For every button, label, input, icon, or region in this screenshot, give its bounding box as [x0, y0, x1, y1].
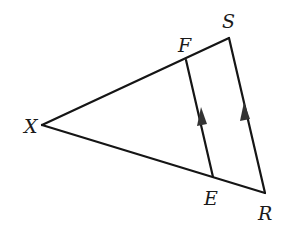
parallel-arrow-sr-icon [240, 102, 250, 121]
segment-xr [42, 125, 265, 193]
diagram-canvas: X F S E R [0, 0, 291, 233]
vertex-label-s: S [222, 10, 235, 32]
vertex-label-e: E [203, 187, 218, 209]
vertex-label-r: R [257, 202, 272, 224]
triangle-diagram: X F S E R [0, 0, 291, 233]
vertex-label-f: F [177, 34, 192, 56]
vertex-label-x: X [22, 115, 39, 137]
